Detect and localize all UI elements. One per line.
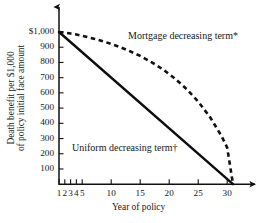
x-axis-tick-label: 30 — [223, 189, 232, 198]
x-axis-tick-label: 20 — [165, 189, 174, 198]
y-axis-title-line2: of policy initial face amount — [16, 18, 26, 178]
x-axis-title: Year of policy — [112, 203, 165, 212]
series-label-uniform-decreasing-term: Uniform decreasing term† — [72, 143, 178, 153]
y-axis-title: Death benefit per $1,000 of policy initi… — [6, 18, 26, 178]
x-axis-tick-label: 3 — [68, 189, 73, 198]
y-axis-title-line1: Death benefit per $1,000 — [6, 18, 16, 178]
footnote-partial-text — [72, 217, 222, 222]
chart-figure: 100200300400500600700800900$1,000 123451… — [0, 0, 264, 223]
x-axis-tick-label: 1 — [57, 189, 62, 198]
series-line-uniform-decreasing-term — [59, 32, 233, 184]
series-label-mortgage-decreasing-term: Mortgage decreasing term* — [128, 31, 238, 41]
series-layer — [59, 32, 233, 184]
x-axis-tick-label: 2 — [63, 189, 68, 198]
x-axis-tick-label: 15 — [136, 189, 145, 198]
x-axis-tick-label: 25 — [194, 189, 203, 198]
x-axis-tick-label: 5 — [80, 189, 85, 198]
x-axis-tick-label: 10 — [107, 189, 116, 198]
x-axis-tick-label: 4 — [74, 189, 79, 198]
